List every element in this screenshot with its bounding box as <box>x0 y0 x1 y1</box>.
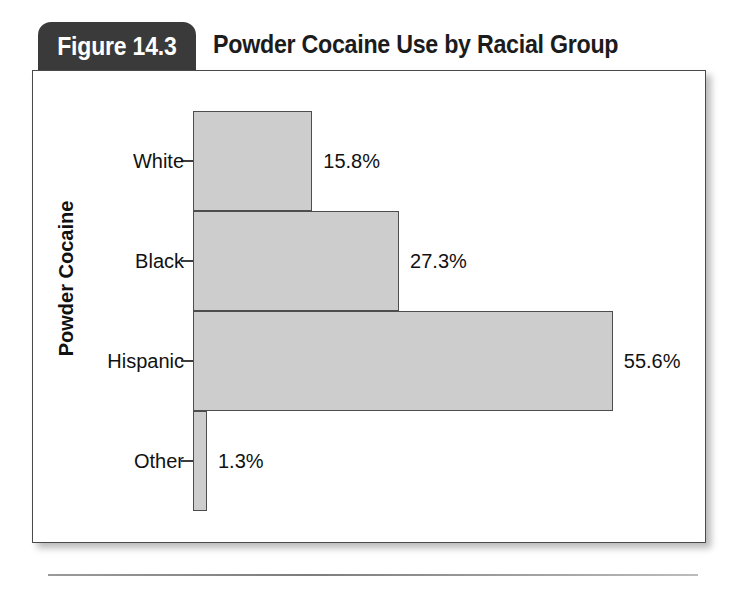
bar-other <box>193 411 207 511</box>
category-label-other: Other <box>134 450 184 473</box>
category-label-black: Black <box>135 250 184 273</box>
bar-row: Other1.3% <box>193 411 207 511</box>
figure-number-badge: Figure 14.3 <box>38 22 196 70</box>
figure-frame: Powder Cocaine White15.8%Black27.3%Hispa… <box>32 70 706 543</box>
bar-value-black: 27.3% <box>410 250 467 273</box>
bar-value-white: 15.8% <box>323 150 380 173</box>
figure-header: Figure 14.3 Powder Cocaine Use by Racial… <box>0 0 731 70</box>
category-label-white: White <box>133 150 184 173</box>
bar-row: Hispanic55.6% <box>193 311 613 411</box>
bar-value-hispanic: 55.6% <box>624 350 681 373</box>
bar-row: Black27.3% <box>193 211 399 311</box>
category-label-hispanic: Hispanic <box>107 350 184 373</box>
y-axis-title: Powder Cocaine <box>55 184 78 374</box>
bar-row: White15.8% <box>193 111 312 211</box>
figure-title: Powder Cocaine Use by Racial Group <box>213 30 618 59</box>
bar-hispanic <box>193 311 613 411</box>
chart-plot-area: Powder Cocaine White15.8%Black27.3%Hispa… <box>33 71 707 544</box>
bottom-divider-rule <box>48 574 698 576</box>
bar-black <box>193 211 399 311</box>
figure-number-label: Figure 14.3 <box>57 32 176 61</box>
bar-white <box>193 111 312 211</box>
bar-value-other: 1.3% <box>218 450 264 473</box>
